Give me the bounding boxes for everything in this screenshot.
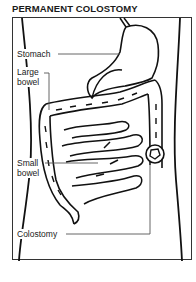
label-large-bowel-line2: bowel [17,77,39,87]
label-colostomy: Colostomy [17,229,57,239]
label-large-bowel-line1: Large [17,67,39,77]
label-small-bowel-line2: bowel [17,168,39,178]
leader-lines [44,54,150,234]
stomach-icon [88,18,159,98]
body-outline-right [175,18,182,261]
colostomy-anatomy-illustration [0,0,196,282]
colostomy-leader [66,163,150,234]
label-small-bowel-line1: Small [17,158,38,168]
stoma-icon [146,145,164,163]
label-stomach: Stomach [17,49,51,59]
